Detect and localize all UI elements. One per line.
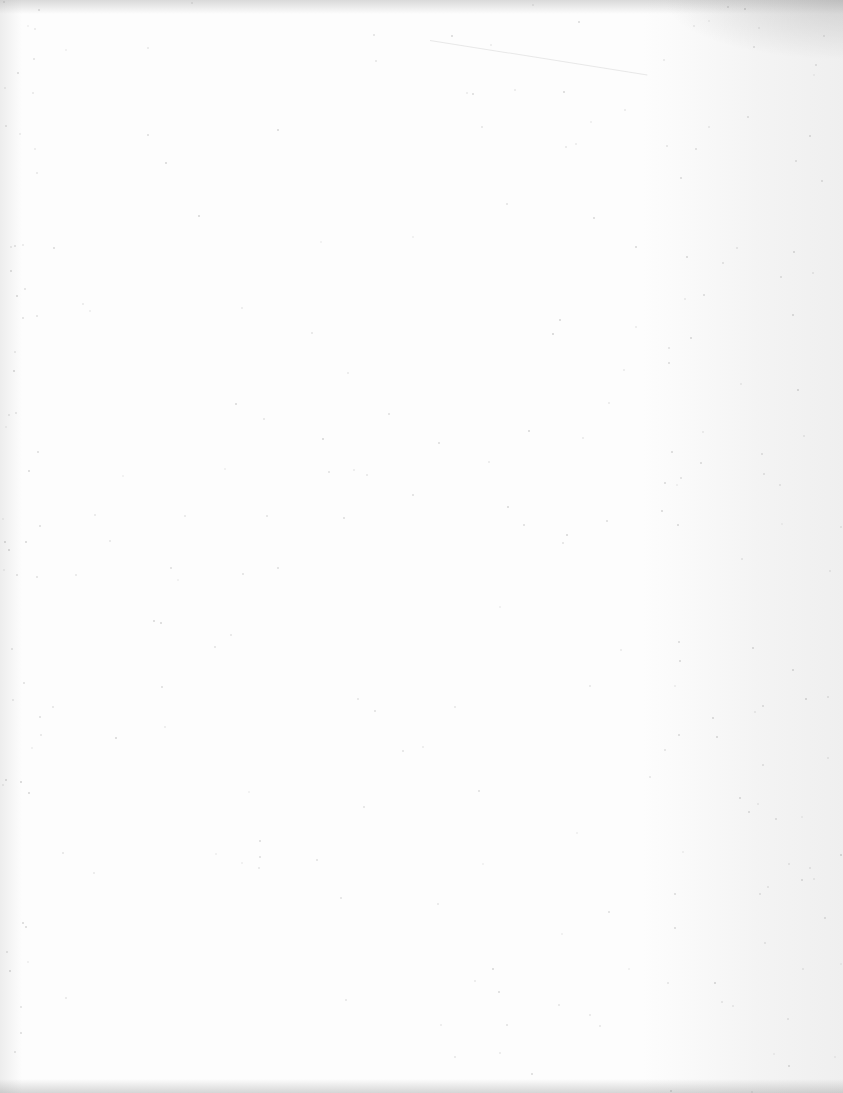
speck [732,1005,734,1007]
speck [552,333,554,335]
speck [52,706,54,708]
speck [812,272,814,274]
speck [499,606,501,608]
speck [764,942,766,944]
speck [823,35,825,37]
speck [373,34,375,36]
speck [277,129,279,131]
speck [721,1001,723,1003]
speck [82,303,84,305]
speck [736,247,738,249]
speck [840,963,842,965]
speck [20,1032,22,1034]
speck [671,451,673,453]
speck [788,863,790,865]
speck [22,317,24,319]
speck [2,518,4,520]
speck [792,314,794,316]
speck [767,886,769,888]
speck [802,968,804,970]
speck [412,494,414,496]
speck [93,872,95,874]
speck [663,59,665,61]
speck [402,750,404,752]
speck [775,818,777,820]
speck [748,811,750,813]
speck [191,2,193,4]
speck [829,570,831,572]
speck [248,791,250,793]
speck [563,91,565,93]
speck [147,134,149,136]
speck [498,991,500,993]
speck [821,180,823,182]
speck [695,148,697,150]
speck [752,647,754,649]
speck [5,125,7,127]
speck [164,726,166,728]
speck [589,1014,591,1016]
speck [690,337,692,339]
speck [89,310,91,312]
speck [259,856,261,858]
speck [241,862,243,864]
speck [242,573,244,575]
speck [649,776,651,778]
speck [716,736,718,738]
speck [438,442,440,444]
speck [20,781,22,783]
speck [795,160,797,162]
speck [440,1024,442,1026]
speck [827,696,829,698]
speck [10,270,12,272]
speck [6,951,8,953]
speck [593,217,595,219]
speck [466,92,468,94]
speck [53,247,55,249]
speck [608,402,610,404]
speck [670,1090,672,1092]
speck [667,982,669,984]
speck [801,816,803,818]
speck [28,792,30,794]
speck [566,534,568,536]
speck [36,315,38,317]
scan-shading-right [643,0,843,1093]
speck [674,927,676,929]
speck [590,121,592,123]
speck [4,87,6,89]
speck [214,646,216,648]
speck [24,288,26,290]
speck [763,473,765,475]
speck [562,542,564,544]
speck [702,431,704,433]
speck [184,515,186,517]
speck [25,541,27,543]
speck [780,276,782,278]
speck [266,515,268,517]
speck [75,574,77,576]
speck [747,116,749,118]
speck [680,477,682,479]
speck [506,203,508,205]
speck [153,620,155,622]
speck [532,4,534,6]
speck [198,215,200,217]
speck [740,383,742,385]
speck [65,997,67,999]
speck [762,705,764,707]
speck [3,1,5,3]
speck [523,524,525,526]
speck [28,470,30,472]
speck [363,806,365,808]
speck [507,506,509,508]
speck [722,262,724,264]
speck [668,347,670,349]
speck [160,622,162,624]
speck [170,567,172,569]
speck [531,1073,533,1075]
speck [11,648,13,650]
speck [801,879,803,881]
speck [478,790,480,792]
speck [813,74,815,76]
